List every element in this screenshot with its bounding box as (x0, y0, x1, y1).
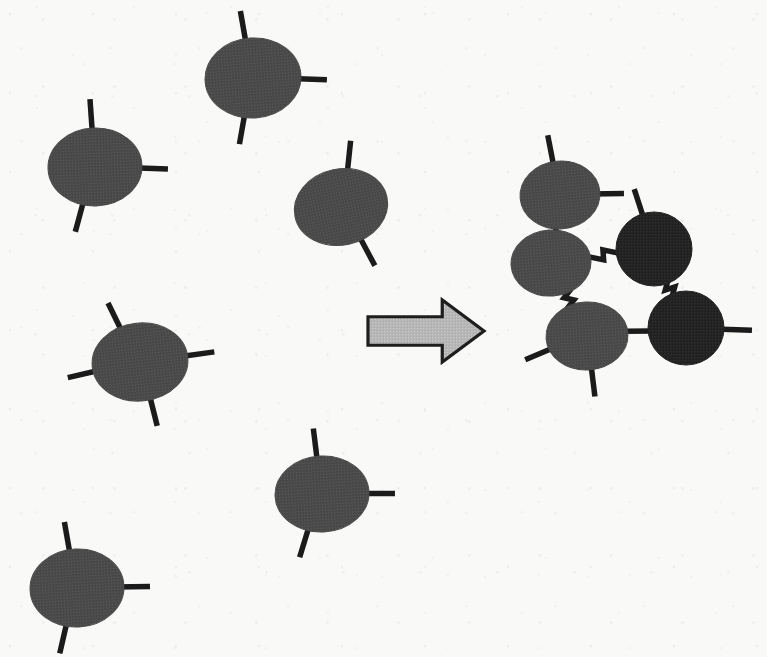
particle-body-light (28, 547, 126, 630)
aggregate-cluster-panel (509, 135, 752, 396)
particle-free-particle-3 (287, 141, 395, 266)
figure-root: Particle aggregation diagram Dispersed r… (0, 0, 767, 657)
particle-cluster-particle-4 (525, 300, 630, 397)
particle-body-light (202, 35, 303, 122)
particle-free-particle-6 (28, 522, 150, 653)
particle-body-light (517, 158, 603, 233)
particle-cluster-particle-5 (648, 291, 752, 365)
diagram-canvas (0, 0, 767, 657)
particle-body-light (287, 160, 395, 254)
particle-body-light (88, 318, 192, 406)
particle-free-particle-4 (68, 303, 215, 426)
particle-body-light (47, 126, 144, 207)
particle-body-dark (648, 291, 724, 365)
particle-free-particle-1 (202, 11, 327, 144)
particle-cluster-particle-3 (616, 189, 692, 286)
particle-cluster-particle-2 (509, 227, 593, 298)
particle-body-light (544, 300, 629, 372)
arrow-right-icon (368, 300, 484, 362)
particle-body-light (273, 454, 371, 535)
dispersed-particles-panel (28, 11, 395, 653)
aggregation-arrow (368, 300, 484, 362)
particle-free-particle-5 (273, 429, 395, 558)
particle-free-particle-2 (47, 99, 168, 232)
particle-body-dark (616, 212, 692, 286)
particle-body-light (509, 227, 593, 298)
particle-cluster-particle-1 (517, 135, 624, 232)
